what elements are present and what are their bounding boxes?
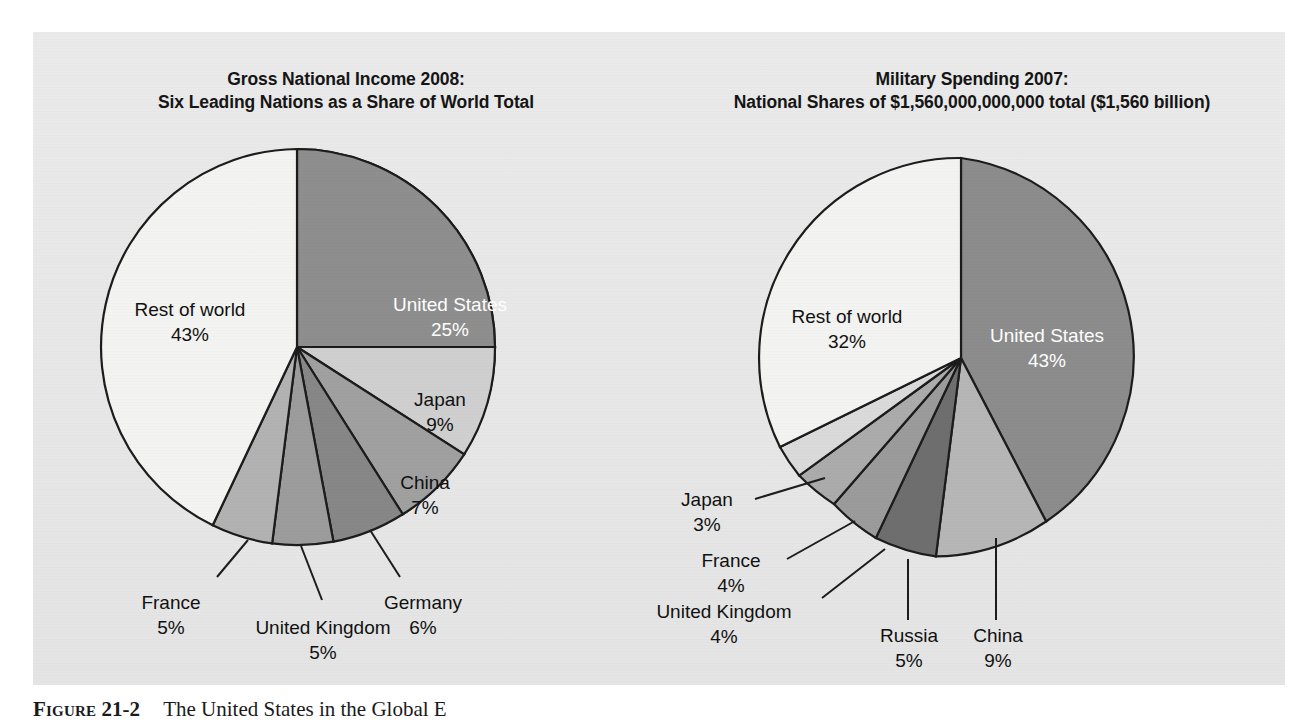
figure-panel: Gross National Income 2008: Six Leading … (33, 32, 1285, 685)
leader-line-france (787, 521, 855, 559)
label-text: Rest of world (792, 306, 903, 327)
label-pct: 5% (111, 615, 231, 640)
label-text: United States (393, 294, 507, 315)
pie-chart-gross-national-income: Gross National Income 2008: Six Leading … (33, 32, 659, 685)
label-pct: 43% (957, 348, 1137, 373)
label-pct: 25% (365, 317, 535, 342)
label-gni-united-kingdom: United Kingdom 5% (223, 615, 423, 665)
pie-svg-gni-render (33, 32, 659, 685)
leader-line-united-kingdom (822, 549, 885, 598)
leader-line-france (217, 540, 248, 577)
label-text: China (400, 472, 450, 493)
label-pct: 7% (365, 495, 485, 520)
label-mil-russia: Russia 5% (859, 623, 959, 673)
label-pct: 4% (624, 624, 824, 649)
pie-chart-military-spending: Military Spending 2007: National Shares … (659, 32, 1285, 685)
label-gni-japan: Japan 9% (380, 387, 500, 437)
label-gni-france: France 5% (111, 590, 231, 640)
label-pct: 5% (223, 640, 423, 665)
label-text: China (973, 625, 1023, 646)
label-mil-united-states: United States 43% (957, 323, 1137, 373)
label-mil-japan: Japan 3% (655, 487, 759, 537)
label-gni-united-states: United States 25% (365, 292, 535, 342)
label-text: Japan (681, 489, 733, 510)
label-pct: 32% (752, 329, 942, 354)
label-text: France (141, 592, 200, 613)
figure-caption: Figure 21-2 The United States in the Glo… (33, 697, 1285, 727)
label-pct: 9% (380, 412, 500, 437)
label-text: Japan (414, 389, 466, 410)
figure-caption-label: Figure (33, 697, 96, 721)
label-text: Russia (880, 625, 938, 646)
leader-line-united-kingdom (301, 546, 322, 600)
label-mil-china: China 9% (951, 623, 1045, 673)
figure-caption-number: 21-2 (101, 697, 140, 721)
label-mil-rest-of-world: Rest of world 32% (752, 304, 942, 354)
label-mil-france: France 4% (672, 548, 790, 598)
label-pct: 3% (655, 512, 759, 537)
label-pct: 5% (859, 648, 959, 673)
label-pct: 43% (95, 322, 285, 347)
label-text: United Kingdom (656, 601, 791, 622)
label-mil-united-kingdom: United Kingdom 4% (624, 599, 824, 649)
label-gni-china: China 7% (365, 470, 485, 520)
figure-caption-text: The United States in the Global E (163, 697, 446, 721)
label-gni-rest-of-world: Rest of world 43% (95, 297, 285, 347)
leader-line-germany (370, 530, 400, 577)
label-pct: 4% (672, 573, 790, 598)
label-text: Germany (384, 592, 462, 613)
label-pct: 9% (951, 648, 1045, 673)
label-text: France (701, 550, 760, 571)
label-text: United States (990, 325, 1104, 346)
label-text: United Kingdom (255, 617, 390, 638)
label-text: Rest of world (135, 299, 246, 320)
